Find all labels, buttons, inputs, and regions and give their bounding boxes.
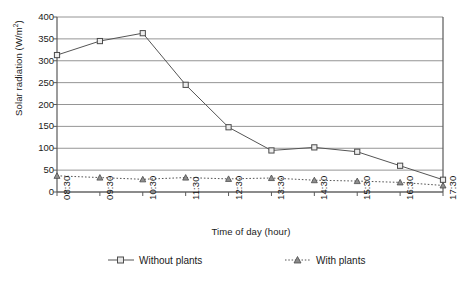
- x-axis-tick-label-1530: 15:30: [361, 176, 372, 200]
- x-axis-title: Time of day (hour): [56, 226, 446, 237]
- data-point-without-plants-5: [269, 148, 274, 153]
- triangle-dotted-line-key-icon: [285, 254, 311, 266]
- data-point-without-plants-7: [355, 149, 360, 154]
- legend-label-without-plants: Without plants: [139, 255, 202, 266]
- legend-item-with-plants: With plants: [285, 254, 365, 266]
- x-axis-tick-label-1630: 16:30: [404, 176, 415, 200]
- data-point-without-plants-2: [140, 31, 145, 36]
- legend-item-without-plants: Without plants: [108, 254, 202, 266]
- data-point-without-plants-6: [312, 145, 317, 150]
- x-axis-tick-label-1230: 12:30: [233, 176, 244, 200]
- legend-label-with-plants: With plants: [316, 255, 365, 266]
- data-point-with-plants-0: [54, 173, 60, 179]
- data-point-without-plants-9: [440, 177, 445, 182]
- x-axis-tick-label-0830: 08:30: [61, 176, 72, 200]
- chart-legend: Without plants With plants: [0, 252, 453, 274]
- data-point-with-plants-5: [268, 175, 274, 181]
- x-axis-tick-label-1330: 13:30: [275, 176, 286, 200]
- x-axis-tick-label-1130: 11:30: [190, 176, 201, 200]
- data-point-with-plants-8: [397, 179, 403, 185]
- square-solid-line-key-icon: [108, 254, 134, 266]
- data-point-without-plants-8: [398, 163, 403, 168]
- data-point-with-plants-9: [440, 182, 446, 188]
- data-point-with-plants-1: [97, 175, 103, 181]
- data-point-without-plants-3: [183, 82, 188, 87]
- x-axis-tick-label-0930: 09:30: [104, 176, 115, 200]
- series-line-without-plants: [57, 33, 443, 180]
- x-axis-tick-label-1030: 10:30: [147, 176, 158, 200]
- data-point-without-plants-0: [54, 52, 59, 57]
- x-axis-tick-label-1430: 14:30: [318, 176, 329, 200]
- x-axis-tick-label-1730: 17:30: [447, 176, 458, 200]
- data-point-without-plants-4: [226, 125, 231, 130]
- data-point-without-plants-1: [97, 38, 102, 43]
